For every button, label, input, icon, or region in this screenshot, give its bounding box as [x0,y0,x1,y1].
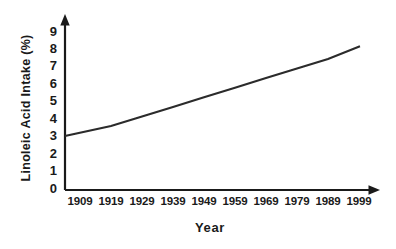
y-tick-label: 3 [50,128,57,143]
y-tick-label: 2 [50,146,57,161]
x-tick-label: 1939 [161,195,186,207]
data-series-line [66,47,359,136]
y-tick-label: 0 [50,181,57,196]
y-tick-label: 8 [50,41,57,56]
y-tick-label: 7 [50,58,57,73]
chart-plot-area: 0 1 2 3 4 5 6 7 8 9 1909 1919 1929 1939 … [0,0,396,249]
x-tick-label: 1929 [130,195,155,207]
y-tick-label: 5 [50,93,57,108]
x-tick-label: 1999 [347,195,372,207]
y-tick-label: 9 [50,24,57,39]
x-tick-label: 1909 [68,195,93,207]
x-tick-label: 1979 [285,195,310,207]
y-axis-title: Linoleic Acid Intake (%) [19,34,33,181]
x-tick-label: 1969 [254,195,279,207]
y-tick-label: 1 [50,163,57,178]
y-axis-arrow-icon [60,14,69,26]
chart-figure: 0 1 2 3 4 5 6 7 8 9 1909 1919 1929 1939 … [0,0,396,249]
x-tick-label: 1949 [192,195,217,207]
y-tick-label: 4 [50,111,58,126]
x-axis-title: Year [195,220,225,235]
x-tick-label: 1959 [223,195,248,207]
x-tick-label: 1989 [316,195,341,207]
x-tick-label: 1919 [99,195,124,207]
x-axis-arrow-icon [369,185,381,194]
y-tick-label: 6 [50,76,57,91]
